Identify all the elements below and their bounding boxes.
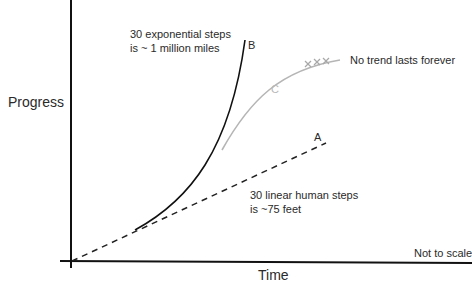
- not-to-scale-note: Not to scale: [414, 246, 472, 260]
- no-trend-annotation: No trend lasts forever: [350, 53, 455, 67]
- y-axis-label: Progress: [8, 95, 64, 109]
- curve-b-exponential: [135, 40, 245, 230]
- exp-annotation-line2: is ~ 1 million miles: [130, 41, 220, 55]
- x-axis: [60, 261, 472, 263]
- exp-annotation-line1: 30 exponential steps: [130, 27, 231, 41]
- curve-b-label: B: [248, 38, 255, 52]
- curve-a-label: A: [314, 130, 321, 144]
- curve-c-label: C: [271, 82, 279, 96]
- lin-annotation-line1: 30 linear human steps: [250, 188, 358, 202]
- lin-annotation-line2: is ~75 feet: [250, 202, 301, 216]
- x-axis-label: Time: [258, 268, 289, 282]
